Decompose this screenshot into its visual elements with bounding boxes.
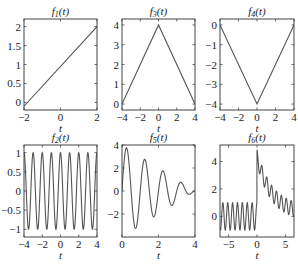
axes-box xyxy=(220,19,294,110)
y-tick-label: −2 xyxy=(205,59,217,71)
x-tick-label: −4 xyxy=(18,238,30,250)
y-tick-label: 0 xyxy=(114,98,120,110)
y-tick-label: 0 xyxy=(114,185,120,197)
subplot-title: f3(t) xyxy=(150,5,168,19)
x-tick-label: 4 xyxy=(94,238,100,250)
subplot-f2: −4−202410.50−0.5−1f2(t)t xyxy=(1,131,100,261)
y-tick-label: 1 xyxy=(114,78,120,90)
subplot-f5: 024420−2f5(t)t xyxy=(107,131,198,261)
y-tick-label: 2 xyxy=(212,183,218,195)
subplot-title: f6(t) xyxy=(248,131,266,145)
subplot-title: f1(t) xyxy=(52,5,70,19)
subplot-title: f4(t) xyxy=(248,5,266,19)
subplot-title: f2(t) xyxy=(52,131,70,145)
x-tick-label: 0 xyxy=(119,238,125,250)
y-tick-label: 1 xyxy=(16,59,22,71)
y-tick-label: −1 xyxy=(9,223,21,235)
y-tick-label: 0.5 xyxy=(7,166,21,178)
x-tick-label: −5 xyxy=(223,238,235,250)
y-tick-label: 2 xyxy=(16,21,22,33)
x-tick-label: 4 xyxy=(192,238,198,250)
figure-canvas: −20200.511.52f1(t)t −4−202401234f3(t)t −… xyxy=(0,0,298,264)
y-tick-label: 1.5 xyxy=(7,40,21,52)
y-tick-label: 0 xyxy=(16,96,22,108)
x-tick-label: 2 xyxy=(94,111,100,123)
subplot-f1: −20200.511.52f1(t)t xyxy=(7,5,100,134)
axes-box xyxy=(122,19,195,110)
curve-f2 xyxy=(24,153,97,230)
curve-f1 xyxy=(24,27,97,107)
x-tick-label: 4 xyxy=(291,111,297,123)
y-tick-label: −1 xyxy=(205,39,217,51)
y-tick-label: 4 xyxy=(114,139,120,151)
y-tick-label: 2 xyxy=(114,162,120,174)
x-tick-label: 2 xyxy=(273,111,279,123)
x-axis-label: t xyxy=(59,249,63,261)
y-tick-label: 4 xyxy=(114,19,120,31)
subplot-f3: −4−202401234f3(t)t xyxy=(114,5,199,134)
x-tick-label: −2 xyxy=(134,111,146,123)
y-tick-label: 2 xyxy=(114,59,120,71)
x-tick-label: −2 xyxy=(18,111,30,123)
x-tick-label: −2 xyxy=(36,238,48,250)
y-tick-label: 0 xyxy=(16,185,22,197)
x-tick-label: 4 xyxy=(192,111,198,123)
curve-f5 xyxy=(122,148,195,229)
curve-f4 xyxy=(220,25,294,104)
subplot-title: f5(t) xyxy=(150,131,168,145)
y-tick-label: 1 xyxy=(16,147,22,159)
x-tick-label: 2 xyxy=(174,111,180,123)
y-tick-label: −4 xyxy=(205,98,217,110)
axes-box xyxy=(24,19,97,110)
y-tick-label: −0.5 xyxy=(1,204,21,216)
subplot-f4: −4−20240−1−2−3−4f4(t)t xyxy=(205,5,297,134)
y-tick-label: −2 xyxy=(107,208,119,220)
y-tick-label: 3 xyxy=(114,39,120,51)
x-axis-label: t xyxy=(157,249,161,261)
subplot-f6: −505420f6(t)t xyxy=(212,131,295,261)
y-tick-label: 4 xyxy=(212,155,218,167)
x-tick-label: −2 xyxy=(233,111,245,123)
y-tick-label: −3 xyxy=(205,78,217,90)
curve-f3 xyxy=(122,25,195,104)
x-axis-label: t xyxy=(255,249,259,261)
y-tick-label: 0 xyxy=(212,210,218,222)
curve-f6 xyxy=(220,150,294,230)
x-tick-label: 5 xyxy=(283,238,289,250)
x-tick-label: −4 xyxy=(116,111,128,123)
y-tick-label: 0 xyxy=(212,19,218,31)
y-tick-label: 0.5 xyxy=(7,77,21,89)
x-tick-label: 2 xyxy=(76,238,82,250)
x-tick-label: −4 xyxy=(214,111,226,123)
